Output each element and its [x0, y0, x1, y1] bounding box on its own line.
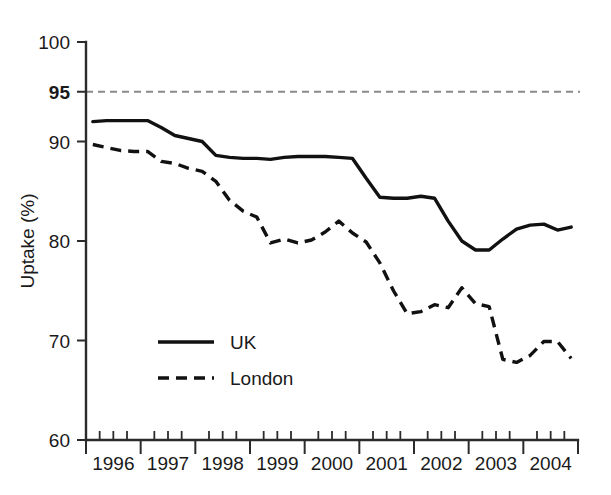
y-tick-label-95: 95: [49, 82, 71, 103]
x-tick-label-1999: 1999: [256, 453, 298, 474]
y-axis-title-group: Uptake (%): [17, 193, 38, 288]
y-tick-label-70: 70: [49, 331, 70, 352]
y-tick-label-60: 60: [49, 430, 70, 451]
x-tick-label-1998: 1998: [202, 453, 244, 474]
line-chart: 1009590807060 19961997199819992000200120…: [0, 0, 611, 495]
x-tick-labels: 199619971998199920002001200220032004: [92, 453, 572, 474]
axes-group: [77, 42, 578, 454]
y-axis-title: Uptake (%): [17, 193, 38, 288]
legend: UKLondon: [158, 332, 293, 389]
x-tick-label-2000: 2000: [311, 453, 353, 474]
x-tick-label-2002: 2002: [420, 453, 462, 474]
legend-label-uk: UK: [230, 332, 257, 353]
x-tick-label-1997: 1997: [147, 453, 189, 474]
x-tick-label-2004: 2004: [530, 453, 573, 474]
y-tick-label-90: 90: [49, 132, 70, 153]
y-tick-labels: 1009590807060: [38, 32, 70, 451]
chart-figure: 1009590807060 19961997199819992000200120…: [0, 0, 611, 495]
x-tick-label-1996: 1996: [92, 453, 134, 474]
series-line-london: [93, 144, 571, 362]
series-line-uk: [93, 121, 571, 250]
x-tick-label-2003: 2003: [475, 453, 517, 474]
legend-label-london: London: [230, 368, 293, 389]
y-tick-label-100: 100: [38, 32, 70, 53]
x-tick-label-2001: 2001: [366, 453, 408, 474]
y-tick-label-80: 80: [49, 231, 70, 252]
series-group: [93, 121, 571, 363]
